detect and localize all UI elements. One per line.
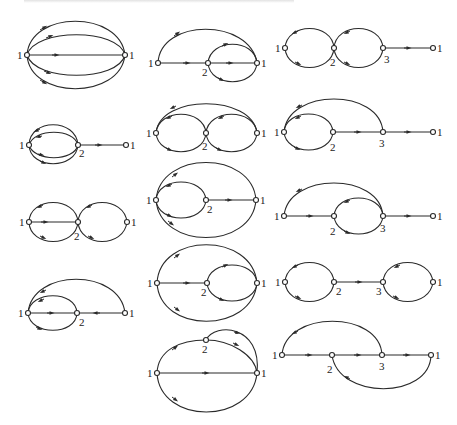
edge <box>78 222 127 242</box>
diagram-b1: 1 2 1 <box>148 29 267 82</box>
vertex <box>255 61 260 66</box>
vertex <box>124 143 129 148</box>
edge <box>27 55 125 75</box>
vertex-label: 1 <box>261 367 267 379</box>
arrow-icon <box>40 299 44 301</box>
vertex-label: 3 <box>376 285 382 297</box>
vertex <box>283 280 288 285</box>
vertex-label: 1 <box>146 127 152 139</box>
edge <box>206 114 257 133</box>
vertex <box>332 46 337 51</box>
diagram-b2: 1 2 1 <box>146 104 267 152</box>
vertex <box>76 220 81 225</box>
diagram-a1: 1 1 <box>17 21 135 89</box>
vertex <box>255 131 260 136</box>
vertex-label: 1 <box>435 349 441 361</box>
edge <box>206 340 257 373</box>
vertex-label: 2 <box>201 286 207 298</box>
vertex-label: 1 <box>129 307 135 319</box>
edge <box>27 55 125 89</box>
vertex <box>255 371 260 376</box>
vertex <box>27 220 32 225</box>
edge <box>206 330 257 373</box>
vertex <box>280 353 285 358</box>
vertex <box>155 281 160 286</box>
diagram-a3: 1 2 1 <box>19 203 137 243</box>
vertex-label: 2 <box>330 141 336 153</box>
edge <box>157 245 257 283</box>
edge <box>285 282 334 302</box>
edge <box>157 283 257 321</box>
vertex-label: 1 <box>147 277 153 289</box>
vertex <box>431 46 436 51</box>
diagram-a2: 1 2 1 <box>19 125 136 164</box>
vertex <box>431 280 436 285</box>
vertex <box>123 311 128 316</box>
vertex-label: 2 <box>202 66 208 78</box>
vertex-label: 1 <box>148 57 154 69</box>
arrow-icon <box>174 255 178 258</box>
vertex <box>381 46 386 51</box>
vertex <box>431 214 436 219</box>
vertex-label: 1 <box>147 367 153 379</box>
vertex-label: 3 <box>379 137 385 149</box>
arrow-icon <box>42 290 46 292</box>
arrow-icon <box>396 265 400 267</box>
edge <box>285 263 334 283</box>
vertex <box>204 198 209 203</box>
vertex-label: 2 <box>336 285 342 297</box>
edge <box>28 296 77 313</box>
vertex <box>204 338 209 343</box>
vertex <box>206 61 211 66</box>
vertex <box>254 198 259 203</box>
vertex-label: 1 <box>275 42 281 54</box>
vertex <box>431 130 436 135</box>
vertex <box>125 220 130 225</box>
vertex <box>332 214 337 219</box>
vertex-label: 3 <box>379 360 385 372</box>
vertex-label: 1 <box>275 276 281 288</box>
vertex <box>330 353 335 358</box>
vertex <box>282 130 287 135</box>
diagram-canvas: 1 1 1 2 1 1 2 1 <box>0 0 457 425</box>
vertex <box>123 53 128 58</box>
vertex <box>381 214 386 219</box>
arrow-icon <box>216 148 220 150</box>
arrow-icon <box>40 236 44 238</box>
vertex-label: 1 <box>129 49 135 61</box>
diagram-c3: 1 2 3 1 <box>274 183 443 237</box>
diagram-b4: 1 2 1 <box>147 245 267 322</box>
edge <box>156 200 206 218</box>
vertex-label: 1 <box>437 42 443 54</box>
edge <box>29 145 78 158</box>
diagram-c4: 1 2 3 1 <box>275 263 443 302</box>
arrow-icon <box>233 343 237 345</box>
edge <box>334 216 383 234</box>
vertex-label: 1 <box>130 139 136 151</box>
edge <box>157 340 206 373</box>
edge <box>27 35 125 55</box>
edge <box>28 313 77 330</box>
vertex <box>205 281 210 286</box>
vertex-label: 2 <box>207 203 213 215</box>
vertex <box>381 130 386 135</box>
diagram-c2: 1 2 3 1 <box>274 99 443 153</box>
edge <box>206 133 257 152</box>
vertex-label: 2 <box>79 147 85 159</box>
arrow-icon <box>172 106 176 108</box>
edge <box>284 114 333 132</box>
vertex <box>155 371 160 376</box>
vertex-label: 1 <box>437 276 443 288</box>
vertex-label: 1 <box>437 210 443 222</box>
diagram-a4: 1 2 1 <box>18 279 135 330</box>
diagram-c5: 1 2 3 1 <box>272 321 441 389</box>
vertex-label: 2 <box>202 140 208 152</box>
vertex <box>204 131 209 136</box>
vertex <box>154 131 159 136</box>
vertex-label: 2 <box>330 56 336 68</box>
diagram-c1: 1 2 3 1 <box>275 29 443 69</box>
vertex <box>331 130 336 135</box>
vertex-label: 2 <box>330 225 336 237</box>
edge <box>208 63 257 82</box>
vertex-label: 1 <box>146 194 152 206</box>
